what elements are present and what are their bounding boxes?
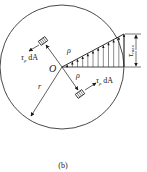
radius-line xyxy=(31,67,62,116)
figure-caption: (b) xyxy=(58,161,68,170)
center-label: O xyxy=(49,63,56,74)
area-element-upper xyxy=(38,37,47,46)
shear-stress-distribution xyxy=(62,34,125,67)
tau-max-dimension: τmax xyxy=(125,34,141,67)
force-label-lower: τρ dA xyxy=(96,76,113,86)
force-label-upper: τρ dA xyxy=(21,53,38,63)
force-arrow-upper xyxy=(29,45,39,51)
rho-label-lower: ρ xyxy=(75,71,80,80)
radius-label: r xyxy=(38,82,42,91)
stress-arrows xyxy=(66,34,125,67)
rho-label-upper: ρ xyxy=(66,46,71,55)
force-arrow-lower xyxy=(85,83,96,90)
tau-max-label: τmax xyxy=(125,45,135,57)
area-element-lower xyxy=(75,90,84,99)
torsion-shear-diagram: τmax O τρ dA ρ τρ dA ρ r (b) xyxy=(0,0,147,172)
